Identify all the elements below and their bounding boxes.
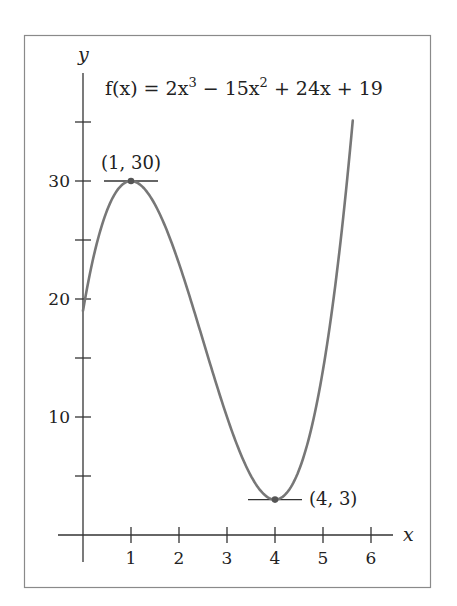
x-tick-label: 2 [174, 548, 185, 568]
y-tick-label: 20 [48, 289, 70, 309]
formula-suffix: + 24x + 19 [268, 77, 383, 99]
function-curve [83, 121, 353, 500]
x-tick-label: 6 [366, 548, 377, 568]
formula-exp2: 2 [260, 75, 268, 90]
x-ticks: 123456 [126, 527, 377, 568]
min-point-label: (4, 3) [309, 488, 357, 509]
axes: x y [58, 43, 414, 562]
formula-mid: − 15x [197, 77, 260, 99]
y-tick-label: 10 [48, 407, 70, 427]
critical-points: (1, 30)(4, 3) [101, 152, 357, 509]
x-tick-label: 5 [318, 548, 329, 568]
critical-point-marker [128, 178, 135, 185]
chart-container: x y 123456 102030 (1, 30)(4, 3) f(x) = 2… [0, 0, 457, 606]
y-axis-label: y [77, 43, 89, 65]
y-tick-label: 30 [48, 171, 70, 191]
chart-frame [25, 36, 431, 588]
critical-point-marker [272, 496, 279, 503]
x-tick-label: 3 [222, 548, 233, 568]
formula-exp1: 3 [188, 75, 196, 90]
max-point-label: (1, 30) [101, 152, 161, 173]
function-label: f(x) = 2x3 − 15x2 + 24x + 19 [105, 75, 383, 99]
x-axis-label: x [403, 523, 414, 545]
x-tick-label: 4 [270, 548, 281, 568]
x-tick-label: 1 [126, 548, 137, 568]
formula-prefix: f(x) = 2x [105, 77, 189, 99]
